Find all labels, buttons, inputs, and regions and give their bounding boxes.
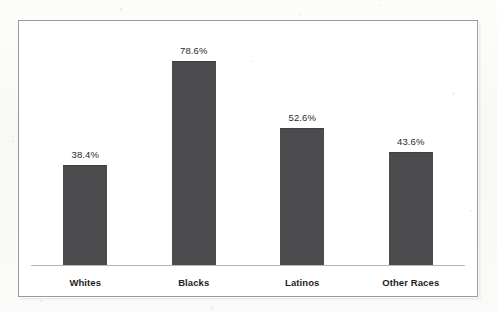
scan-speck bbox=[380, 4, 382, 6]
bar-value-label: 38.4% bbox=[72, 149, 99, 160]
bar-value-label: 78.6% bbox=[180, 45, 207, 56]
scan-speck bbox=[300, 14, 302, 16]
chart-page: 38.4% 78.6% 52.6% 43.6% Whit bbox=[0, 0, 497, 312]
scan-speck bbox=[120, 8, 123, 11]
category-label-other-races: Other Races bbox=[357, 277, 466, 288]
scan-speck bbox=[40, 300, 42, 302]
bar-rect[interactable] bbox=[280, 128, 324, 265]
bar-group-latinos[interactable]: 52.6% bbox=[248, 21, 357, 265]
bar-group-other-races[interactable]: 43.6% bbox=[357, 21, 466, 265]
bar-value-label: 43.6% bbox=[397, 136, 424, 147]
category-label-whites: Whites bbox=[31, 277, 140, 288]
bar-rect[interactable] bbox=[172, 61, 216, 265]
scan-speck bbox=[210, 306, 213, 309]
category-label-latinos: Latinos bbox=[248, 277, 357, 288]
x-axis-tick-labels: Whites Blacks Latinos Other Races bbox=[31, 267, 465, 297]
bar-rect[interactable] bbox=[389, 152, 433, 265]
x-axis-line bbox=[31, 265, 465, 266]
bar-rect[interactable] bbox=[63, 165, 107, 265]
bar-group-blacks[interactable]: 78.6% bbox=[140, 21, 249, 265]
bar-group-whites[interactable]: 38.4% bbox=[31, 21, 140, 265]
plot-area: 38.4% 78.6% 52.6% 43.6% Whit bbox=[19, 21, 477, 296]
scan-speck bbox=[12, 140, 14, 142]
category-label-blacks: Blacks bbox=[140, 277, 249, 288]
chart-frame: 38.4% 78.6% 52.6% 43.6% Whit bbox=[18, 20, 478, 297]
bar-series: 38.4% 78.6% 52.6% 43.6% bbox=[31, 21, 465, 265]
bar-value-label: 52.6% bbox=[289, 112, 316, 123]
